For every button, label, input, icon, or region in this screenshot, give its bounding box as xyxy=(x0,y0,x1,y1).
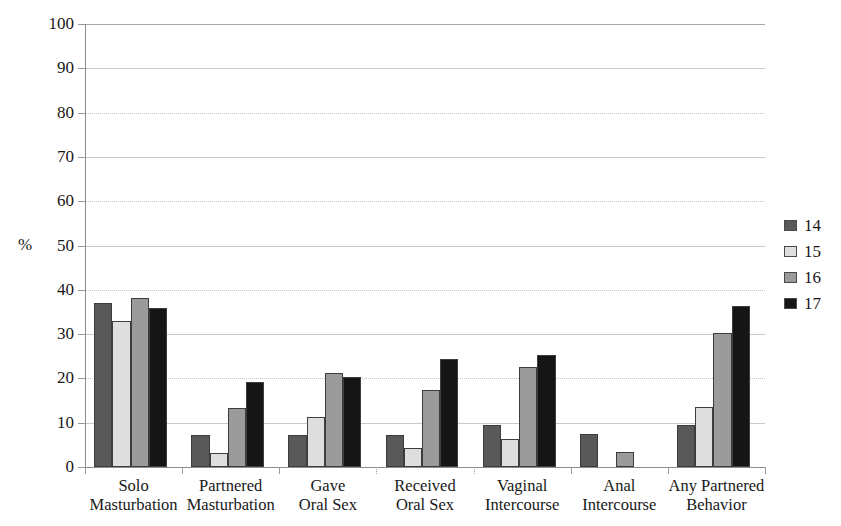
y-tick-mark-40 xyxy=(78,290,85,291)
x-tick-mark xyxy=(376,467,377,474)
legend-item-16[interactable]: 16 xyxy=(784,264,840,290)
legend-swatch-icon xyxy=(784,220,797,231)
bar-group xyxy=(288,24,361,467)
bar-group xyxy=(94,24,167,467)
legend-swatch-icon xyxy=(784,272,797,283)
y-tick-mark-90 xyxy=(78,68,85,69)
legend-label: 15 xyxy=(804,243,821,260)
y-tick-label-100: 100 xyxy=(30,15,74,32)
x-tick-mark xyxy=(571,467,572,474)
y-tick-label-50: 50 xyxy=(30,237,74,254)
bar xyxy=(713,333,731,467)
y-tick-mark-10 xyxy=(78,423,85,424)
x-tick-mark xyxy=(474,467,475,474)
y-tick-label-10: 10 xyxy=(30,414,74,431)
bar xyxy=(131,298,149,467)
bar-group xyxy=(580,24,653,467)
y-tick-mark-50 xyxy=(78,246,85,247)
bar xyxy=(343,377,361,467)
y-tick-mark-60 xyxy=(78,201,85,202)
bar xyxy=(228,408,246,467)
bar xyxy=(307,417,325,467)
bar xyxy=(210,453,228,467)
bar-group xyxy=(386,24,459,467)
x-tick-mark xyxy=(765,467,766,474)
bar-chart: 1009080706050403020100 % 14151617 SoloMa… xyxy=(0,0,841,526)
bar xyxy=(325,373,343,467)
bar xyxy=(677,425,695,467)
y-tick-label-30: 30 xyxy=(30,325,74,342)
bar xyxy=(537,355,555,467)
y-tick-mark-0 xyxy=(78,467,85,468)
x-axis-line xyxy=(85,467,766,468)
bar-group xyxy=(191,24,264,467)
y-tick-label-70: 70 xyxy=(30,148,74,165)
bar xyxy=(94,303,112,467)
legend-label: 14 xyxy=(804,217,821,234)
y-tick-label-60: 60 xyxy=(30,192,74,209)
legend-swatch-icon xyxy=(784,246,797,257)
bar xyxy=(191,435,209,467)
bar xyxy=(501,439,519,467)
legend-item-14[interactable]: 14 xyxy=(784,212,840,238)
bar xyxy=(483,425,501,467)
bar xyxy=(149,308,167,467)
y-tick-mark-70 xyxy=(78,157,85,158)
y-tick-label-0: 0 xyxy=(30,458,74,475)
y-tick-label-90: 90 xyxy=(30,59,74,76)
y-tick-mark-20 xyxy=(78,378,85,379)
x-tick-mark xyxy=(182,467,183,474)
legend: 14151617 xyxy=(784,212,840,316)
x-tick-mark xyxy=(85,467,86,474)
y-tick-mark-30 xyxy=(78,334,85,335)
x-axis-label-line: Any Partnered xyxy=(654,476,779,495)
bar-group xyxy=(677,24,750,467)
bar xyxy=(440,359,458,467)
y-axis-title: % xyxy=(18,236,32,253)
legend-label: 17 xyxy=(804,295,821,312)
bar xyxy=(404,448,422,467)
y-tick-label-40: 40 xyxy=(30,281,74,298)
legend-item-17[interactable]: 17 xyxy=(784,290,840,316)
bar-group xyxy=(483,24,556,467)
legend-label: 16 xyxy=(804,269,821,286)
bar xyxy=(616,452,634,467)
bar xyxy=(288,435,306,467)
x-tick-mark xyxy=(279,467,280,474)
bar xyxy=(422,390,440,467)
y-axis-tick-labels: 1009080706050403020100 xyxy=(22,0,74,526)
legend-swatch-icon xyxy=(784,298,797,309)
bar xyxy=(386,435,404,467)
bar xyxy=(246,382,264,467)
y-tick-mark-80 xyxy=(78,113,85,114)
x-axis-label: Any PartneredBehavior xyxy=(654,476,779,514)
bar xyxy=(732,306,750,467)
legend-item-15[interactable]: 15 xyxy=(784,238,840,264)
bar xyxy=(580,434,598,467)
y-tick-label-80: 80 xyxy=(30,104,74,121)
y-tick-label-20: 20 xyxy=(30,369,74,386)
y-tick-mark-100 xyxy=(78,24,85,25)
y-axis-line xyxy=(85,24,86,468)
bar xyxy=(519,367,537,467)
bar xyxy=(695,407,713,467)
bar xyxy=(112,321,130,467)
x-tick-mark xyxy=(668,467,669,474)
x-axis-label-line: Behavior xyxy=(654,495,779,514)
